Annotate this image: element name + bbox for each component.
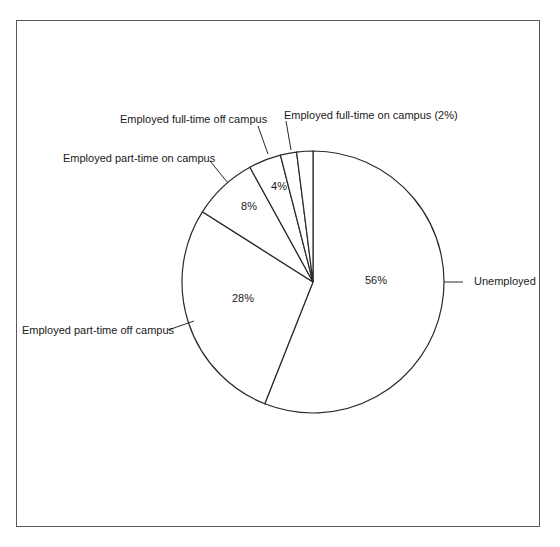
label-unemployed: Unemployed: [474, 275, 536, 287]
label-ft-on: Employed full-time on campus (2%): [284, 109, 458, 121]
leader-pt-on: [210, 161, 228, 183]
label-pt-on: Employed part-time on campus: [63, 152, 216, 164]
pct-pt-off: 28%: [232, 292, 254, 304]
label-pt-off: Employed part-time off campus: [22, 324, 175, 336]
pct-pt-on: 8%: [241, 200, 257, 212]
leader-ft-off: [258, 126, 268, 154]
pie-slices: [182, 151, 444, 413]
leader-ft-on: [286, 121, 291, 150]
pct-ft-off: 4%: [271, 180, 287, 192]
pie-chart: Unemployed Employed part-time off campus…: [0, 0, 560, 547]
label-ft-off: Employed full-time off campus: [120, 113, 268, 125]
pct-unemployed: 56%: [365, 274, 387, 286]
